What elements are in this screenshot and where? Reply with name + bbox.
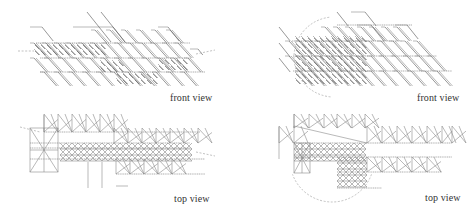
panel-top-left: top view (0, 110, 237, 219)
panel-front-left: front view (0, 0, 237, 110)
panel-caption: front view (170, 92, 212, 103)
panel-caption: top view (174, 193, 210, 204)
panel-top-right: top view (237, 110, 474, 219)
panel-caption: front view (417, 92, 459, 103)
panel-caption: top view (425, 192, 461, 203)
panel-front-right: front view (237, 0, 474, 110)
